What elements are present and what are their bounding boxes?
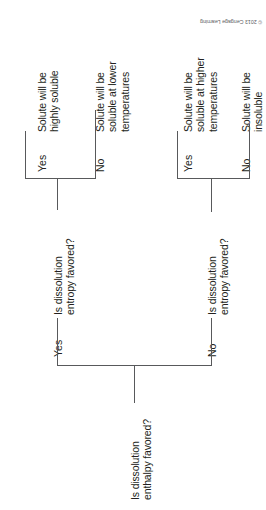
node-entropy-question-top: Is dissolution entropy favored? [52,239,77,315]
flowchart-canvas: © 2013 Cengage Learning Solute will be h… [0,0,266,510]
node-root-line1: Is dissolution [129,419,141,500]
edge-label-bottom-yes: Yes [182,155,194,172]
leaf-soluble-lower-line3: temperatures [119,61,131,132]
edge-root-stem [134,365,135,403]
edge-bottom-yes-arm [177,131,178,178]
leaf-insoluble-line2: insoluble [252,72,264,132]
node-entropy-question-bottom: Is dissolution entropy favored? [206,239,231,315]
leaf-highly-soluble-line2: highly soluble [48,70,60,132]
leaf-highly-soluble-line1: Solute will be [36,70,48,132]
edge-label-root-yes: Yes [52,340,64,357]
edge-label-top-yes: Yes [36,155,48,172]
edge-root-no-arm [211,318,212,365]
leaf-soluble-higher-line2: soluble at higher [194,57,206,132]
leaf-soluble-higher-temperatures: Solute will be soluble at higher tempera… [182,57,219,132]
edge-root-yes-arm [57,318,58,365]
leaf-soluble-lower-line2: soluble at lower [106,61,118,132]
leaf-soluble-higher-line1: Solute will be [182,57,194,132]
node-entropy-top-line1: Is dissolution [52,239,64,315]
node-root-question: Is dissolution enthalpy favored? [129,419,154,500]
leaf-insoluble: Solute will be insoluble [240,72,265,132]
edge-bottom-crossbar [177,178,250,179]
node-root-line2: enthalpy favored? [141,419,153,500]
node-entropy-bottom-line1: Is dissolution [206,239,218,315]
leaf-insoluble-line1: Solute will be [240,72,252,132]
node-entropy-bottom-line2: entropy favored? [218,239,230,315]
edge-label-bottom-no: No [240,159,252,172]
leaf-soluble-higher-line3: temperatures [207,57,219,132]
node-entropy-top-line2: entropy favored? [64,239,76,315]
edge-top-yes-arm [25,131,26,178]
edge-bottom-no-arm [249,124,250,178]
edge-top-crossbar [25,178,96,179]
leaf-soluble-lower-temperatures: Solute will be soluble at lower temperat… [94,61,131,132]
leaf-highly-soluble: Solute will be highly soluble [36,70,61,132]
copyright-notice: © 2013 Cengage Learning [200,19,262,25]
edge-label-root-no: No [206,344,218,357]
edge-top-stem [57,178,58,210]
edge-bottom-stem [211,178,212,212]
edge-top-no-arm [95,110,96,178]
